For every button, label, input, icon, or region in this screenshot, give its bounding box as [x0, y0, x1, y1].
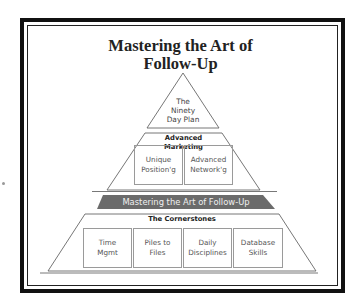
apex-label-line-2: Ninety	[153, 106, 213, 115]
base-box-time-mgmt: Time Mgmt	[83, 228, 132, 268]
base-box-daily-disciplines: Daily Disciplines	[183, 228, 232, 268]
base-box-label: Piles to Files	[145, 238, 171, 258]
middle-box-label: Advanced Network'g	[190, 155, 227, 175]
middle-box-unique-positioning: Unique Position'g	[134, 145, 183, 185]
middle-box-label: Unique Position'g	[141, 155, 176, 175]
base-box-label: Time Mgmt	[97, 238, 118, 258]
base-tier-header: The Cornerstones	[85, 215, 279, 224]
middle-box-advanced-networking: Advanced Network'g	[184, 145, 233, 185]
base-box-label: Database Skills	[241, 238, 275, 258]
base-box-piles-to-files: Piles to Files	[133, 228, 182, 268]
base-box-label: Daily Disciplines	[188, 238, 227, 258]
base-box-database-skills: Database Skills	[233, 228, 283, 268]
band-label: Mastering the Art of Follow-Up	[100, 195, 272, 209]
apex-label-line-3: Day Plan	[153, 115, 213, 124]
apex-label-line-1: The	[153, 97, 213, 106]
